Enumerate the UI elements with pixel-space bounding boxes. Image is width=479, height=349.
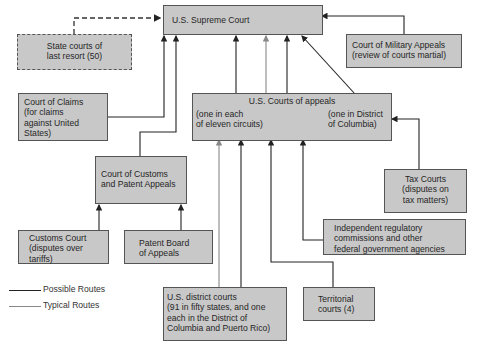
- appeals-title: U.S. Courts of appeals: [196, 96, 388, 106]
- supreme-court-label: U.S. Supreme Court: [172, 15, 249, 25]
- tax-line-1: Tax Courts: [390, 174, 461, 184]
- territorial-courts-node: Territorial courts (4): [303, 287, 375, 321]
- regulatory-agencies-node: Independent regulatory commissions and o…: [323, 219, 466, 255]
- district-line-4: Columbia and Puerto Rico): [167, 323, 283, 333]
- agencies-line-3: federal government agencies: [334, 244, 455, 254]
- claims-line-4: States): [24, 128, 102, 138]
- customs-patent-appeals-node: Court of Customs and Patent Appeals: [95, 156, 187, 204]
- customs-patent-line-1: Court of Customs: [101, 169, 181, 179]
- legend-typical-label: Typical Routes: [43, 300, 99, 310]
- appeals-right-line-1: (one in District: [328, 109, 383, 119]
- agencies-line-1: Independent regulatory: [334, 223, 455, 233]
- tax-line-3: tax matters): [390, 195, 461, 205]
- patent-board-line-2: of Appeals: [139, 248, 198, 258]
- claims-line-1: Court of Claims: [24, 97, 102, 107]
- state-courts-node: State courts of last resort (50): [17, 34, 132, 70]
- customs-patent-line-2: and Patent Appeals: [101, 179, 181, 189]
- court-of-claims-node: Court of Claims (for claims against Unit…: [18, 93, 108, 141]
- customs-court-line-2: (disputes over: [29, 243, 98, 253]
- agencies-line-2: commissions and other: [334, 233, 455, 243]
- claims-line-3: against United: [24, 118, 102, 128]
- claims-line-2: (for claims: [24, 107, 102, 117]
- legend-typical-line: [9, 306, 41, 307]
- legend-possible-line: [9, 290, 41, 291]
- appeals-right-line-2: of Columbia): [328, 119, 383, 129]
- district-courts-node: U.S. district courts (91 in fifty states…: [163, 287, 287, 341]
- state-courts-line-1: State courts of: [23, 41, 126, 51]
- district-line-3: each in the District of: [167, 313, 283, 323]
- customs-court-node: Customs Court (disputes over tariffs): [18, 230, 109, 264]
- appeals-left-line-1: (one in each: [196, 109, 263, 119]
- tax-line-2: (disputes on: [390, 184, 461, 194]
- district-line-1: U.S. district courts: [167, 292, 283, 302]
- patent-board-line-1: Patent Board: [139, 238, 198, 248]
- territorial-line-2: courts (4): [318, 304, 360, 314]
- tax-courts-node: Tax Courts (disputes on tax matters): [384, 169, 467, 213]
- appeals-left-line-2: of eleven circuits): [196, 119, 263, 129]
- customs-court-line-3: tariffs): [29, 254, 98, 264]
- courts-of-appeals-node: U.S. Courts of appeals (one in each of e…: [192, 93, 392, 141]
- military-appeals-node: Court of Military Appeals (review of cou…: [346, 34, 462, 68]
- supreme-court-node: U.S. Supreme Court: [163, 5, 323, 35]
- state-courts-line-2: last resort (50): [23, 51, 126, 61]
- military-line-1: Court of Military Appeals: [352, 40, 456, 50]
- territorial-line-1: Territorial: [318, 294, 360, 304]
- district-line-2: (91 in fifty states, and one: [167, 302, 283, 312]
- legend-possible-label: Possible Routes: [43, 284, 105, 294]
- customs-court-line-1: Customs Court: [29, 233, 98, 243]
- patent-board-node: Patent Board of Appeals: [124, 230, 213, 264]
- military-line-2: (review of courts martial): [352, 50, 456, 60]
